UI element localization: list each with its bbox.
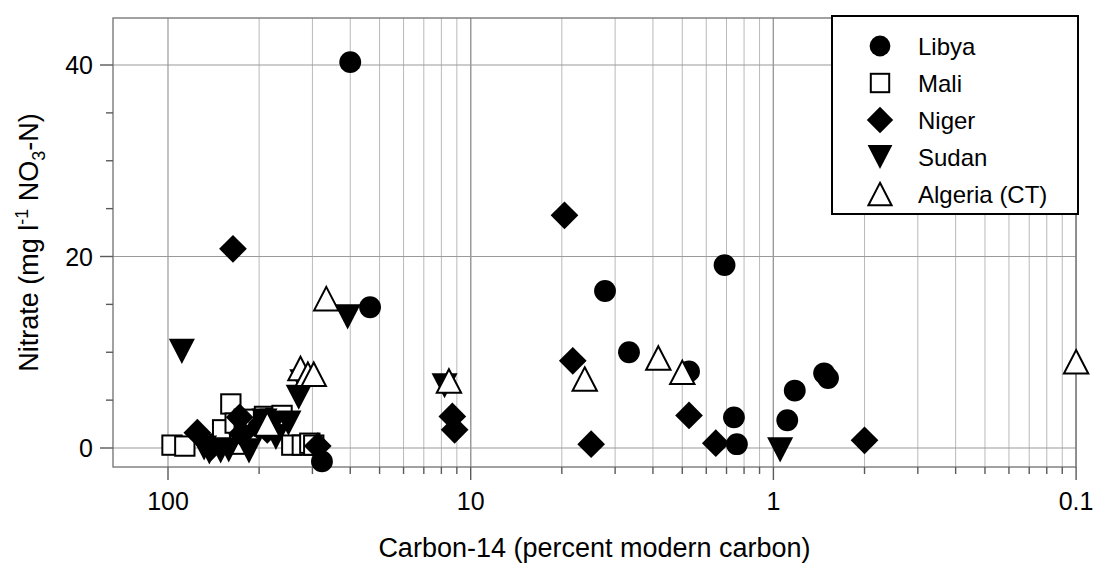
data-point-filled-circle — [714, 254, 736, 276]
legend-marker-filled-circle — [870, 36, 891, 57]
data-point-filled-triangle-down — [335, 304, 361, 329]
y-tick-label: 20 — [65, 243, 93, 271]
data-point-filled-diamond — [851, 426, 879, 454]
data-point-filled-circle — [618, 341, 640, 363]
legend-label: Mali — [918, 70, 962, 97]
data-point-filled-triangle-down — [767, 437, 793, 462]
data-point-open-triangle-up — [646, 346, 670, 370]
x-tick-label: 10 — [457, 487, 485, 515]
axis-titles: Carbon-14 (percent modern carbon)Nitrate… — [12, 113, 811, 563]
data-point-filled-circle — [726, 433, 748, 455]
x-tick-label: 1 — [766, 487, 780, 515]
legend-label: Niger — [918, 107, 975, 134]
y-axis-title: Nitrate (mg l-1 NO3-N) — [12, 113, 49, 372]
legend-label: Algeria (CT) — [918, 181, 1047, 208]
y-tick-label: 40 — [65, 51, 93, 79]
legend-label: Libya — [918, 33, 976, 60]
data-point-filled-circle — [359, 296, 381, 318]
x-tick-label: 0.1 — [1059, 487, 1094, 515]
scatter-plot: 020401001010.1 LibyaMaliNigerSudanAlgeri… — [0, 0, 1106, 583]
data-point-filled-diamond — [675, 402, 703, 430]
data-point-filled-circle — [723, 406, 745, 428]
series-sudan — [169, 304, 793, 464]
data-point-open-triangle-up — [1064, 350, 1088, 374]
data-point-filled-circle — [784, 380, 806, 402]
legend-label: Sudan — [918, 144, 987, 171]
svg-text:Nitrate (mg l-1 NO3-N): Nitrate (mg l-1 NO3-N) — [12, 113, 49, 372]
data-point-filled-circle — [594, 280, 616, 302]
x-axis-title: Carbon-14 (percent modern carbon) — [378, 533, 810, 563]
x-tick-label: 100 — [147, 487, 189, 515]
chart-figure: 020401001010.1 LibyaMaliNigerSudanAlgeri… — [0, 0, 1106, 583]
y-tick-label: 0 — [79, 434, 93, 462]
data-point-filled-triangle-down — [169, 339, 195, 364]
data-point-filled-diamond — [551, 201, 579, 229]
chart-legend: LibyaMaliNigerSudanAlgeria (CT) — [832, 16, 1078, 214]
data-point-filled-diamond — [577, 430, 605, 458]
legend-marker-open-square — [871, 74, 889, 92]
data-point-filled-circle — [776, 409, 798, 431]
data-point-filled-circle — [817, 367, 839, 389]
data-point-filled-diamond — [219, 235, 247, 263]
data-point-filled-circle — [339, 51, 361, 73]
data-point-open-triangle-up — [314, 287, 338, 311]
